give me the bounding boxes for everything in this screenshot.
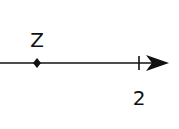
number-line-diagram: Z 2 <box>0 0 179 129</box>
tick-label: 2 <box>133 86 146 110</box>
point-z-label: Z <box>30 28 44 52</box>
point-z-marker-icon <box>33 58 41 68</box>
